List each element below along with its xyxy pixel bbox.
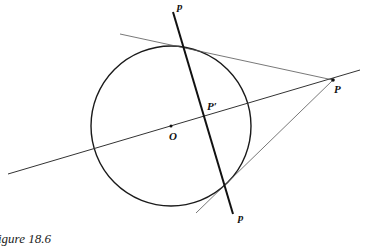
label-O: O <box>169 130 177 142</box>
figure-diagram: p p P P′ O igure 18.6 <box>0 0 365 246</box>
label-p-top: p <box>176 0 183 12</box>
line-OP <box>8 70 360 174</box>
figure-caption: igure 18.6 <box>0 231 51 246</box>
label-P-prime: P′ <box>207 100 217 112</box>
label-p-bottom: p <box>237 211 244 223</box>
polar-line-p <box>173 12 233 214</box>
tangent-upper <box>120 34 333 80</box>
point-P <box>331 78 335 82</box>
point-O <box>170 125 173 128</box>
label-P: P <box>334 83 341 95</box>
